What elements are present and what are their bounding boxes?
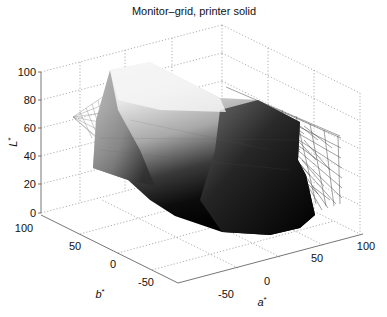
svg-text:50: 50 xyxy=(69,240,81,252)
z-axis-label: L* xyxy=(6,137,19,146)
y-axis-label: b* xyxy=(95,287,104,300)
svg-text:50: 50 xyxy=(311,252,323,264)
svg-text:0: 0 xyxy=(264,275,270,287)
y-tick-labels: 100 50 0 -50 xyxy=(15,222,154,288)
svg-text:-50: -50 xyxy=(138,276,154,288)
gamut-3d-plot: Monitor–grid, printer solid xyxy=(0,0,387,317)
svg-text:20: 20 xyxy=(24,178,36,190)
svg-text:60: 60 xyxy=(24,122,36,134)
z-tick-labels: 100 80 60 40 20 0 xyxy=(18,66,36,219)
chart-title: Monitor–grid, printer solid xyxy=(132,5,256,17)
x-tick-labels: -50 0 50 100 xyxy=(218,240,375,300)
svg-text:40: 40 xyxy=(24,150,36,162)
svg-text:100: 100 xyxy=(15,222,33,234)
svg-text:100: 100 xyxy=(18,66,36,78)
printer-solid xyxy=(93,62,315,235)
svg-text:-50: -50 xyxy=(218,288,234,300)
svg-text:100: 100 xyxy=(357,240,375,252)
x-axis-label: a* xyxy=(257,295,266,308)
svg-text:80: 80 xyxy=(24,94,36,106)
svg-text:0: 0 xyxy=(110,258,116,270)
svg-text:0: 0 xyxy=(30,207,36,219)
